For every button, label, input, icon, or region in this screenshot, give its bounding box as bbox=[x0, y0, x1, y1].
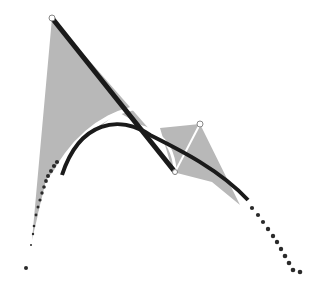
control-point-right bbox=[197, 121, 203, 127]
control-point-mid bbox=[173, 170, 178, 175]
control-point-top bbox=[49, 15, 55, 21]
sample-dots-right bbox=[250, 206, 302, 274]
bezier-diagram bbox=[0, 0, 323, 290]
